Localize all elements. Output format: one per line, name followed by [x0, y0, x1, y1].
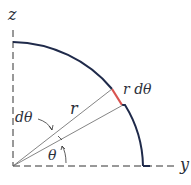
arc-element-rdtheta — [112, 89, 122, 105]
arc-upper — [13, 42, 112, 89]
ray-upper — [13, 89, 112, 166]
angle-label: θ — [48, 147, 57, 163]
arc-lower — [122, 105, 143, 166]
angle-increment-label: dθ — [15, 109, 33, 125]
arc-element-label: r dθ — [123, 81, 152, 97]
y-axis-label: y — [179, 155, 190, 174]
dtheta-arrow-lower-icon — [58, 136, 62, 140]
polar-arc-diagram: z y r r dθ θ dθ — [0, 0, 191, 185]
radius-label: r — [70, 99, 79, 118]
z-axis-label: z — [7, 5, 17, 24]
dtheta-arrow-icon — [38, 119, 52, 130]
